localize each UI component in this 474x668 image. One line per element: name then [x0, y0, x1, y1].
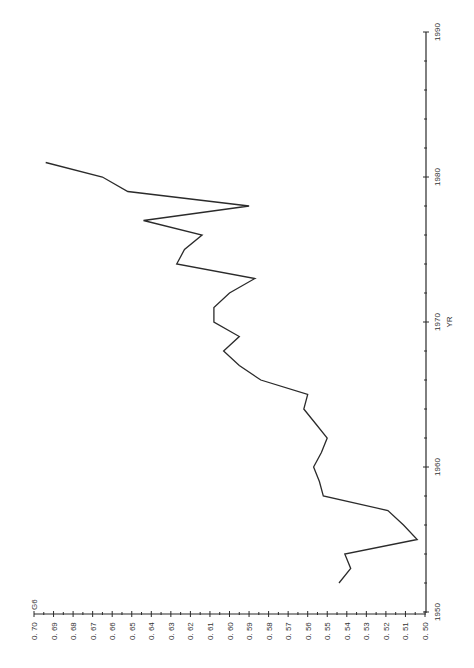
- g6-tick-label: 0. 50: [421, 622, 430, 640]
- yr-tick-label: 1970: [433, 313, 442, 331]
- g6-tick-label: 0. 69: [50, 622, 59, 640]
- g6-tick-label: 0. 62: [186, 622, 195, 640]
- g6-value-axis: 0. 700. 690. 680. 670. 660. 650. 640. 63…: [30, 611, 430, 640]
- g6-tick-label: 0. 70: [30, 622, 39, 640]
- yr-tick-label: 1950: [433, 603, 442, 621]
- g6-tick-label: 0. 61: [206, 622, 215, 640]
- g6-tick-label: 0. 66: [108, 622, 117, 640]
- g6-tick-label: 0. 56: [304, 622, 313, 640]
- g6-tick-label: 0. 64: [147, 622, 156, 640]
- g6-tick-label: 0. 52: [382, 622, 391, 640]
- g6-series-line: [46, 163, 418, 584]
- g6-tick-label: 0. 63: [167, 622, 176, 640]
- g6-tick-label: 0. 51: [401, 622, 410, 640]
- g6-tick-label: 0. 60: [226, 622, 235, 640]
- year-axis: 19501960197019801990: [423, 23, 442, 621]
- g6-tick-label: 0. 68: [69, 622, 78, 640]
- g6-tick-label: 0. 58: [265, 622, 274, 640]
- yr-tick-label: 1990: [433, 23, 442, 41]
- g6-axis-title: G6: [30, 599, 39, 610]
- g6-tick-label: 0. 57: [284, 622, 293, 640]
- yr-tick-label: 1980: [433, 168, 442, 186]
- rotated-line-chart: 0. 700. 690. 680. 670. 660. 650. 640. 63…: [0, 0, 474, 668]
- g6-tick-label: 0. 65: [128, 622, 137, 640]
- g6-tick-label: 0. 67: [89, 622, 98, 640]
- g6-tick-label: 0. 54: [343, 622, 352, 640]
- g6-tick-label: 0. 55: [323, 622, 332, 640]
- g6-tick-label: 0. 59: [245, 622, 254, 640]
- yr-axis-title: YR: [445, 316, 454, 327]
- yr-tick-label: 1960: [433, 458, 442, 476]
- g6-tick-label: 0. 53: [362, 622, 371, 640]
